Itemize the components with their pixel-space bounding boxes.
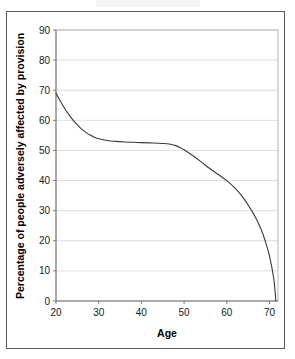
x-axis-title: Age: [157, 327, 177, 339]
plot-area-background: [56, 30, 278, 301]
x-tick-label: 20: [50, 307, 62, 318]
y-tick-label: 80: [39, 55, 51, 66]
y-tick-label: 10: [39, 265, 51, 276]
x-axis-tick-labels: 203040506070: [50, 307, 275, 318]
y-tick-label: 60: [39, 115, 51, 126]
chart-figure: 0102030405060708090 203040506070 Percent…: [0, 0, 295, 359]
y-tick-label: 30: [39, 205, 51, 216]
y-axis-tick-labels: 0102030405060708090: [39, 25, 51, 307]
x-tick-label: 70: [264, 307, 276, 318]
y-tick-label: 20: [39, 235, 51, 246]
y-tick-label: 90: [39, 25, 51, 36]
y-tick-label: 40: [39, 175, 51, 186]
y-tick-label: 0: [44, 296, 50, 307]
x-tick-label: 60: [221, 307, 233, 318]
x-tick-label: 50: [179, 307, 191, 318]
y-tick-label: 70: [39, 85, 51, 96]
y-axis-title: Percentage of people adversely affected …: [14, 33, 26, 299]
y-tick-label: 50: [39, 145, 51, 156]
x-tick-label: 40: [136, 307, 148, 318]
line-chart: 0102030405060708090 203040506070 Percent…: [0, 0, 295, 359]
x-tick-label: 30: [93, 307, 105, 318]
